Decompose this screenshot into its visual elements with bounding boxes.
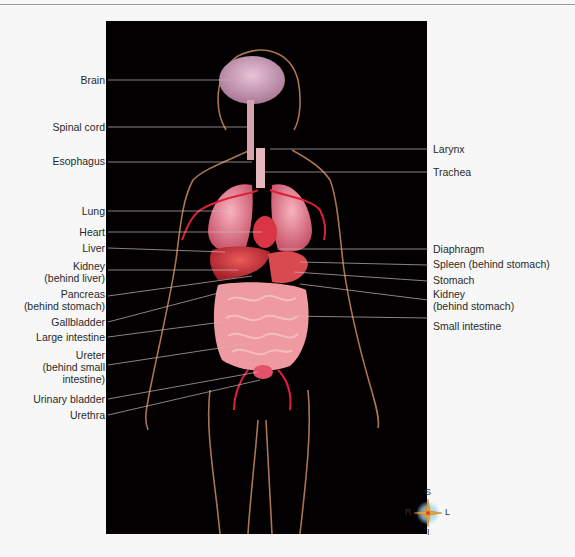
label-gallbladder: Gallbladder (51, 316, 105, 328)
label-brain: Brain (80, 74, 105, 86)
label-small-intestine: Small intestine (433, 320, 501, 332)
label-trachea: Trachea (433, 166, 471, 178)
label-stomach: Stomach (433, 274, 474, 286)
label-spinal-cord: Spinal cord (52, 121, 105, 133)
label-liver: Liver (82, 242, 105, 254)
label-lung: Lung (82, 205, 105, 217)
label-kidney-behind-stomach: Kidney(behind stomach) (433, 288, 514, 312)
label-diaphragm: Diaphragm (433, 243, 484, 255)
compass-right: R (405, 507, 412, 517)
label-pancreas: Pancreas(behind stomach) (24, 288, 105, 312)
label-kidney-behind-liver: Kidney(behind liver) (44, 260, 105, 284)
label-heart: Heart (79, 226, 105, 238)
label-urethra: Urethra (70, 409, 105, 421)
label-spleen: Spleen (behind stomach) (433, 258, 550, 270)
label-esophagus: Esophagus (52, 155, 105, 167)
label-ureter: Ureter(behind smallintestine) (43, 349, 105, 385)
label-larynx: Larynx (433, 143, 465, 155)
compass-inferior: I (427, 527, 430, 537)
compass-left: L (445, 507, 450, 517)
label-large-intestine: Large intestine (36, 331, 105, 343)
label-urinary-bladder: Urinary bladder (33, 393, 105, 405)
compass-superior: S (425, 487, 431, 497)
orientation-compass: S R L I (400, 487, 460, 539)
